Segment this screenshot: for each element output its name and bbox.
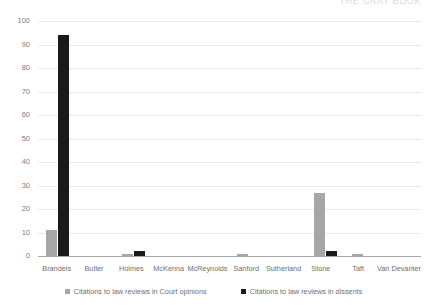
legend-item-0[interactable]: Citations to law reviews in Court opinio… [65, 287, 207, 296]
bar-group-butler [76, 21, 114, 256]
y-axis-tick-90: 90 [22, 41, 30, 49]
x-axis-label-mckenna: McKenna [150, 264, 187, 278]
legend-item-1[interactable]: Citations to law reviews in dissents [241, 287, 363, 296]
y-axis-tick-0: 0 [26, 252, 30, 260]
x-axis-label-mcreynolds: McReynolds [187, 264, 227, 278]
bar-group-sutherland [268, 21, 306, 256]
plot-area [38, 21, 421, 256]
legend-label-0: Citations to law reviews in Court opinio… [74, 287, 207, 296]
y-axis-tick-30: 30 [22, 182, 30, 190]
legend-label-1: Citations to law reviews in dissents [250, 287, 363, 296]
bar-brandeis-series-1[interactable] [58, 35, 69, 256]
bar-group-sanford [229, 21, 267, 256]
y-axis-tick-70: 70 [22, 88, 30, 96]
y-axis-tick-10: 10 [22, 229, 30, 237]
header-text-label: THE GRAY BOOK [340, 0, 421, 6]
bar-holmes-series-0[interactable] [122, 254, 133, 256]
x-axis-label-taft: Taft [340, 264, 377, 278]
bars-layer [38, 21, 421, 256]
legend-swatch-icon-0 [65, 289, 70, 294]
bar-group-stone [306, 21, 344, 256]
bar-group-brandeis [38, 21, 76, 256]
bar-brandeis-series-0[interactable] [46, 230, 57, 256]
bar-stone-series-1[interactable] [326, 251, 337, 256]
chart-legend: Citations to law reviews in Court opinio… [0, 284, 427, 298]
y-axis-tick-60: 60 [22, 111, 30, 119]
x-axis-label-van-devanter: Van Devanter [377, 264, 421, 278]
y-axis-tick-labels: 0102030405060708090100 [0, 14, 34, 262]
bar-group-holmes [115, 21, 153, 256]
bar-taft-series-0[interactable] [352, 254, 363, 256]
axis-baseline [38, 256, 421, 257]
bar-group-mcreynolds [191, 21, 229, 256]
bar-sanford-series-0[interactable] [237, 254, 248, 256]
y-axis-tick-80: 80 [22, 64, 30, 72]
y-axis-tick-50: 50 [22, 135, 30, 143]
x-axis-label-stone: Stone [302, 264, 339, 278]
x-axis-label-brandeis: Brandeis [38, 264, 75, 278]
cut-off-header-text: THE GRAY BOOK [340, 0, 421, 9]
y-axis-tick-20: 20 [22, 205, 30, 213]
x-axis-label-sutherland: Sutherland [265, 264, 302, 278]
bar-chart: THE GRAY BOOK 0102030405060708090100 Bra… [0, 0, 427, 305]
bar-holmes-series-1[interactable] [134, 251, 145, 256]
bar-group-taft [344, 21, 382, 256]
x-axis-label-holmes: Holmes [113, 264, 150, 278]
legend-swatch-icon-1 [241, 289, 246, 294]
bar-group-van-devanter [383, 21, 421, 256]
bar-group-mckenna [153, 21, 191, 256]
bar-stone-series-0[interactable] [314, 193, 325, 256]
plot-wrapper: 0102030405060708090100 [0, 14, 427, 262]
x-axis-category-labels: BrandeisButlerHolmesMcKennaMcReynoldsSan… [38, 264, 421, 278]
y-axis-tick-40: 40 [22, 158, 30, 166]
x-axis-label-butler: Butler [75, 264, 112, 278]
y-axis-tick-100: 100 [17, 17, 30, 25]
x-axis-label-sanford: Sanford [228, 264, 265, 278]
